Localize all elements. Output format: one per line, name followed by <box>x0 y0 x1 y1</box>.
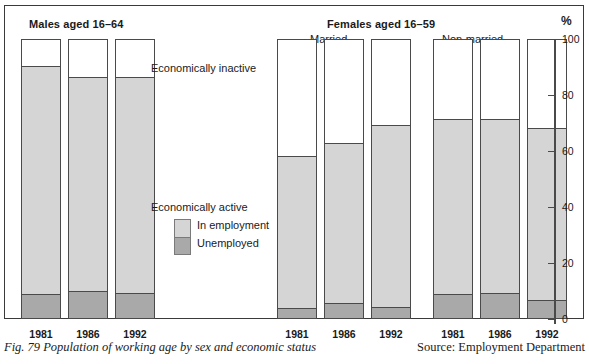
legend-label-in-employment: In employment <box>197 219 269 231</box>
bar-segment-unemployed <box>325 303 363 318</box>
bar-segment-in-employment <box>278 156 316 309</box>
stacked-bar[interactable] <box>21 39 61 319</box>
legend-label-economically-inactive: Economically inactive <box>151 62 256 74</box>
y-axis-tick-mark <box>548 207 555 209</box>
x-axis-category-label: 1986 <box>66 328 110 340</box>
bar-segment-unemployed <box>69 291 107 318</box>
figure-source: Source: Employment Department <box>417 340 585 355</box>
x-axis-category-label: 1981 <box>275 328 319 340</box>
bar-segment-in-employment <box>372 125 410 307</box>
legend-swatch-unemployed <box>175 237 190 254</box>
stacked-bar[interactable] <box>433 39 473 319</box>
x-axis-category-label: 1981 <box>431 328 475 340</box>
y-axis-tick-label: 60 <box>562 145 574 157</box>
legend-swatch-group <box>174 219 191 255</box>
y-axis-unit-label: % <box>561 14 572 28</box>
bar-segment-in-employment <box>481 119 519 293</box>
bar-segment-unemployed <box>481 293 519 318</box>
y-axis-line <box>554 39 556 324</box>
chart-frame: Males aged 16–64 Females aged 16–59 Marr… <box>4 5 584 319</box>
legend-label-economically-active: Economically active <box>151 201 248 213</box>
bar-segment-unemployed <box>528 300 566 318</box>
figure-container: Males aged 16–64 Females aged 16–59 Marr… <box>0 0 589 364</box>
bar-segment-unemployed <box>434 294 472 318</box>
bar-segment-in-employment <box>116 77 154 293</box>
y-axis-tick-mark <box>548 95 555 97</box>
stacked-bar[interactable] <box>277 39 317 319</box>
x-axis-category-label: 1981 <box>19 328 63 340</box>
stacked-bar[interactable] <box>527 39 567 319</box>
y-axis-tick-mark <box>548 263 555 265</box>
plot-area: 198119861992198119861992198119861992 <box>5 6 585 320</box>
legend-swatch-in-employment <box>175 220 190 237</box>
x-axis-category-label: 1992 <box>369 328 413 340</box>
y-axis-tick-label: 100 <box>562 33 580 45</box>
stacked-bar[interactable] <box>115 39 155 319</box>
legend-label-unemployed: Unemployed <box>197 237 259 249</box>
y-axis-tick-label: 0 <box>562 313 568 325</box>
bar-segment-unemployed <box>372 307 410 318</box>
y-axis-tick-mark <box>548 319 555 321</box>
stacked-bar[interactable] <box>324 39 364 319</box>
bar-segment-unemployed <box>22 294 60 318</box>
bar-segment-in-employment <box>434 119 472 294</box>
y-axis-tick-label: 40 <box>562 201 574 213</box>
figure-caption: Fig. 79 Population of working age by sex… <box>4 340 316 355</box>
stacked-bar[interactable] <box>68 39 108 319</box>
y-axis-tick-mark <box>548 151 555 153</box>
y-axis-tick-label: 20 <box>562 257 574 269</box>
bar-segment-in-employment <box>69 77 107 291</box>
bar-segment-in-employment <box>22 66 60 294</box>
y-axis-tick-mark <box>548 39 555 41</box>
stacked-bar[interactable] <box>371 39 411 319</box>
x-axis-category-label: 1986 <box>478 328 522 340</box>
bar-segment-unemployed <box>116 293 154 318</box>
bar-segment-unemployed <box>278 308 316 318</box>
x-axis-category-label: 1986 <box>322 328 366 340</box>
bar-segment-in-employment <box>325 143 363 303</box>
x-axis-category-label: 1992 <box>113 328 157 340</box>
bar-segment-in-employment <box>528 128 566 300</box>
y-axis-tick-label: 80 <box>562 89 574 101</box>
x-axis-category-label: 1992 <box>525 328 569 340</box>
stacked-bar[interactable] <box>480 39 520 319</box>
